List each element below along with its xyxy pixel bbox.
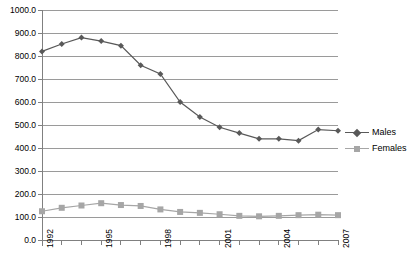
data-point-females-2001 [217, 211, 223, 217]
data-point-females-1998 [157, 206, 163, 212]
y-tick-label: 500.0 [0, 121, 36, 130]
data-point-males-2007 [335, 128, 341, 134]
series-line-females [42, 203, 338, 216]
y-tick-label: 1000.0 [0, 6, 36, 15]
y-tick-label: 200.0 [0, 190, 36, 199]
y-tick-label: 300.0 [0, 167, 36, 176]
y-tick-label: 100.0 [0, 213, 36, 222]
data-point-females-2003 [256, 213, 262, 219]
y-tick-label: 600.0 [0, 98, 36, 107]
data-point-females-1995 [98, 200, 104, 206]
legend-item-females: Females [345, 142, 417, 155]
data-point-females-2006 [315, 212, 321, 218]
data-point-males-2002 [236, 130, 242, 136]
data-point-males-1993 [59, 41, 65, 47]
data-point-males-2003 [256, 136, 262, 142]
y-tick-label: 400.0 [0, 144, 36, 153]
x-tick-label: 1992 [46, 229, 55, 248]
data-point-females-2002 [236, 213, 242, 219]
data-point-females-2005 [296, 212, 302, 218]
data-point-females-1993 [59, 205, 65, 211]
data-point-females-1999 [177, 209, 183, 215]
y-tick-label: 900.0 [0, 29, 36, 38]
data-point-females-2000 [197, 210, 203, 216]
data-point-males-1992 [39, 48, 45, 54]
data-point-females-1994 [78, 203, 84, 209]
y-tick-label: 700.0 [0, 75, 36, 84]
x-tick-label: 2001 [224, 229, 233, 248]
legend-marker-females [345, 143, 369, 154]
x-tick-label: 1995 [105, 229, 114, 248]
y-tick-label: 0.0 [0, 236, 36, 245]
data-point-males-2006 [315, 127, 321, 133]
data-point-males-1995 [98, 38, 104, 44]
data-point-females-2007 [335, 212, 341, 218]
chart-legend: Males Females [345, 126, 417, 158]
x-tick-label: 1998 [164, 229, 173, 248]
data-point-females-1996 [118, 202, 124, 208]
y-tick-label: 800.0 [0, 52, 36, 61]
data-point-males-2004 [276, 136, 282, 142]
x-tick-label: 2004 [283, 229, 292, 248]
data-point-males-2005 [296, 138, 302, 144]
legend-item-males: Males [345, 126, 417, 139]
legend-marker-males [345, 127, 369, 138]
data-point-females-1992 [39, 208, 45, 214]
data-point-females-1997 [138, 203, 144, 209]
line-chart: 0.0100.0200.0300.0400.0500.0600.0700.080… [0, 0, 418, 279]
data-point-males-1994 [78, 35, 84, 41]
x-tick-label: 2007 [342, 229, 351, 248]
legend-label-females: Females [372, 143, 407, 154]
data-point-females-2004 [276, 213, 282, 219]
legend-label-males: Males [372, 127, 396, 138]
